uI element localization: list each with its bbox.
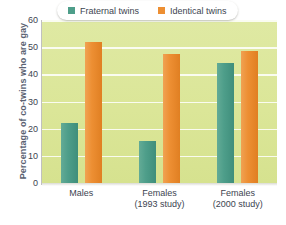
y-axis-tick-20: 20 — [14, 124, 38, 134]
bar-fraternal-group-0 — [61, 123, 78, 183]
plot-area — [42, 20, 277, 183]
legend-swatch-identical-icon — [158, 7, 165, 14]
x-axis-group-labels: MalesFemales(1993 study)Females(2000 stu… — [42, 188, 277, 222]
gridline-50 — [42, 47, 277, 49]
chart-legend: Fraternal twinsIdentical twins — [57, 1, 238, 20]
plot-area-shadow — [42, 183, 277, 186]
bar-fraternal-group-2 — [217, 63, 234, 183]
y-axis-tick-50: 50 — [14, 42, 38, 52]
legend-label: Identical twins — [170, 6, 227, 16]
y-axis-tick-60: 60 — [14, 15, 38, 25]
x-axis-label-2: Females(2000 study) — [213, 188, 263, 210]
legend-label: Fraternal twins — [80, 6, 139, 16]
x-axis-label-main: Females — [221, 188, 256, 198]
x-axis-label-0: Males — [69, 188, 93, 199]
x-axis-label-sub: (2000 study) — [213, 199, 263, 210]
x-axis-label-1: Females(1993 study) — [134, 188, 184, 210]
legend-item-identical: Identical twins — [158, 6, 227, 16]
bar-identical-group-1 — [163, 54, 180, 183]
y-axis-tick-0: 0 — [14, 178, 38, 188]
bar-identical-group-2 — [241, 51, 258, 183]
y-axis-tick-40: 40 — [14, 69, 38, 79]
legend-item-fraternal: Fraternal twins — [68, 6, 139, 16]
x-axis-label-main: Females — [142, 188, 177, 198]
y-axis-tick-labels: 0102030405060 — [14, 20, 38, 183]
bar-identical-group-0 — [85, 42, 102, 183]
bar-chart: Percentage of co-twins who are gay 01020… — [0, 0, 286, 225]
x-axis-label-sub: (1993 study) — [134, 199, 184, 210]
legend-swatch-fraternal-icon — [68, 7, 75, 14]
y-axis-tick-30: 30 — [14, 97, 38, 107]
y-axis-tick-10: 10 — [14, 151, 38, 161]
gridline-60 — [42, 20, 277, 22]
bar-fraternal-group-1 — [139, 141, 156, 183]
x-axis-label-main: Males — [69, 188, 93, 198]
